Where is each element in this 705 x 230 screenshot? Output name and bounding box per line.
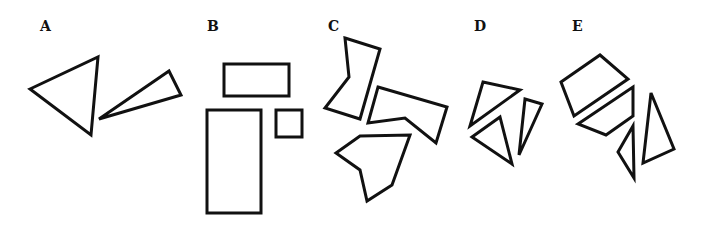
panel-d bbox=[470, 82, 542, 164]
triangle-d3 bbox=[519, 99, 542, 155]
rect-b1 bbox=[224, 64, 289, 96]
rect-b2 bbox=[207, 110, 261, 213]
triangle-a1 bbox=[30, 57, 98, 135]
polygon-e1 bbox=[561, 55, 628, 116]
triangle-a2 bbox=[99, 71, 181, 119]
shapes-canvas bbox=[0, 0, 705, 230]
polygon-c3 bbox=[336, 135, 410, 201]
panel-c bbox=[325, 38, 447, 201]
triangle-d2 bbox=[472, 117, 512, 164]
triangle-e3 bbox=[618, 126, 634, 178]
rect-b3 bbox=[276, 110, 302, 137]
panel-e bbox=[561, 55, 674, 178]
panel-b bbox=[207, 64, 302, 213]
triangle-e4 bbox=[643, 93, 674, 163]
panel-a bbox=[30, 57, 181, 135]
